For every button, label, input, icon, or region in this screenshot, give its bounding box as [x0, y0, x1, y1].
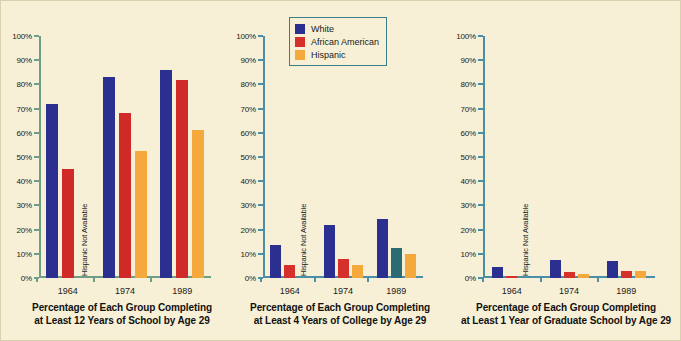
legend-swatch-white: [295, 24, 305, 34]
y-tick-mark: [478, 108, 483, 110]
y-tick-label: 40%: [461, 177, 476, 186]
y-tick-label: 90%: [461, 56, 476, 65]
caption-line-1: Percentage of Each Group Completing: [449, 301, 681, 314]
y-tick-label: 60%: [461, 128, 476, 137]
legend-item-african-american: African American: [295, 35, 379, 48]
legend-item-hispanic: Hispanic: [295, 48, 379, 61]
bar-white-1989: [607, 261, 618, 278]
x-tick-mark: [482, 278, 484, 282]
legend-label-african-american: African American: [311, 37, 379, 47]
bar-white-1974: [550, 260, 561, 278]
y-tick-label: 30%: [461, 201, 476, 210]
bar-african-american-1974: [564, 272, 575, 278]
y-tick-mark: [478, 253, 483, 255]
plot-area-3: 0%10%20%30%40%50%60%70%80%90%100%1964His…: [483, 36, 655, 278]
legend-label-hispanic: Hispanic: [311, 50, 346, 60]
y-tick-mark: [478, 83, 483, 85]
x-tick-mark: [597, 278, 599, 282]
y-tick-mark: [478, 229, 483, 231]
y-tick-label: 10%: [461, 249, 476, 258]
y-axis-line: [483, 36, 485, 278]
bar-hispanic-1989: [635, 271, 646, 278]
legend-swatch-hispanic: [295, 50, 305, 60]
bar-white-1964: [492, 267, 503, 278]
y-tick-label: 20%: [461, 225, 476, 234]
legend-swatch-african-american: [295, 37, 305, 47]
y-tick-label: 80%: [461, 80, 476, 89]
bar-hispanic-1974: [578, 274, 589, 278]
y-tick-mark: [478, 35, 483, 37]
chart-legend: White African American Hispanic: [289, 17, 387, 66]
bar-african-american-1989: [621, 271, 632, 278]
y-tick-mark: [478, 204, 483, 206]
x-tick-label-1964: 1964: [502, 286, 522, 296]
legend-label-white: White: [311, 24, 334, 34]
hispanic-not-available-note: Hispanic Not Available: [521, 204, 530, 276]
y-tick-mark: [478, 180, 483, 182]
y-tick-label: 50%: [461, 153, 476, 162]
y-tick-label: 0%: [465, 274, 476, 283]
x-tick-label-1989: 1989: [616, 286, 636, 296]
chart-caption-3: Percentage of Each Group Completingat Le…: [449, 301, 681, 327]
x-tick-label-1974: 1974: [559, 286, 579, 296]
y-tick-mark: [478, 156, 483, 158]
y-tick-label: 100%: [456, 32, 476, 41]
caption-line-2: at Least 1 Year of Graduate School by Ag…: [449, 314, 681, 327]
x-tick-mark: [540, 278, 542, 282]
legend-item-white: White: [295, 22, 379, 35]
y-tick-mark: [478, 59, 483, 61]
bar-african-american-1964: [506, 276, 517, 278]
figure-container: 0%10%20%30%40%50%60%70%80%90%100%1964His…: [0, 0, 681, 341]
y-tick-label: 70%: [461, 104, 476, 113]
y-tick-mark: [478, 132, 483, 134]
